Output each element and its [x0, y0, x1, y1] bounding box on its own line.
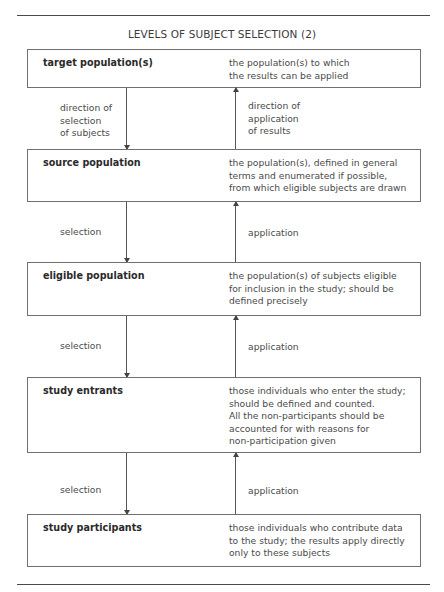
application-label: application — [248, 341, 299, 354]
level-box-source-population: source population the population(s), def… — [27, 149, 421, 202]
selection-label: selection — [60, 340, 101, 353]
diagram-title: LEVELS OF SUBJECT SELECTION (2) — [0, 28, 444, 40]
selection-arrow-down-icon — [126, 202, 127, 262]
level-box-study-entrants: study entrants those individuals who ent… — [27, 377, 421, 453]
selection-arrow-down-icon — [126, 88, 127, 149]
level-description: the population(s) to which the results c… — [229, 57, 350, 82]
selection-label: direction of selection of subjects — [60, 102, 112, 140]
selection-arrow-down-icon — [126, 453, 127, 514]
application-arrow-up-icon — [235, 316, 236, 377]
level-description: those individuals who contribute data to… — [229, 522, 405, 560]
selection-label: selection — [60, 226, 101, 239]
level-box-eligible-population: eligible population the population(s) of… — [27, 262, 421, 316]
application-label: direction of application of results — [248, 100, 300, 138]
level-box-target-population: target population(s) the population(s) t… — [27, 49, 421, 88]
application-arrow-up-icon — [235, 202, 236, 262]
level-box-study-participants: study participants those individuals who… — [27, 514, 421, 567]
bottom-rule — [17, 584, 430, 585]
level-name: source population — [43, 157, 141, 168]
application-arrow-up-icon — [235, 453, 236, 514]
level-name: eligible population — [43, 270, 144, 281]
level-name: target population(s) — [43, 57, 153, 68]
level-description: the population(s) of subjects eligible f… — [229, 270, 397, 308]
application-label: application — [248, 485, 299, 498]
level-description: those individuals who enter the study; s… — [229, 385, 406, 448]
selection-arrow-down-icon — [126, 316, 127, 377]
level-name: study participants — [43, 522, 142, 533]
top-rule — [17, 15, 430, 16]
selection-label: selection — [60, 484, 101, 497]
level-description: the population(s), defined in general te… — [229, 157, 406, 195]
application-label: application — [248, 227, 299, 240]
level-name: study entrants — [43, 385, 123, 396]
application-arrow-up-icon — [235, 88, 236, 149]
